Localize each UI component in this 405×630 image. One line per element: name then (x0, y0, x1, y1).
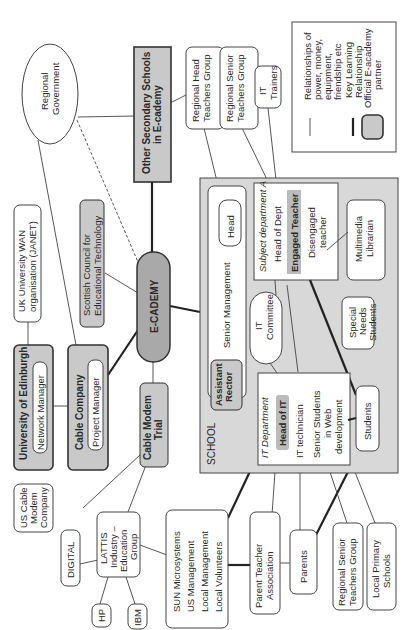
svg-text:University of Edinburgh: University of Edinburgh (18, 347, 29, 460)
node-scottish-council: Scottish Council forEducational Technolo… (80, 200, 104, 327)
svg-text:Regional SeniorTeachers Group: Regional SeniorTeachers Group (224, 54, 246, 122)
svg-text:DIGITAL: DIGITAL (65, 542, 76, 578)
node-cable-modem-trial: Cable ModemTrial (140, 383, 168, 467)
svg-text:HP: HP (96, 609, 107, 622)
e-cademy-relationship-diagram: Relationships ofpower, money,equipment,f… (0, 0, 405, 630)
node-parents: Parents (290, 530, 317, 594)
node-cable-company: Cable Company Project Manager (68, 345, 108, 470)
node-us-cable-modem: US CableModemCompany (14, 484, 53, 532)
svg-text:Head of Dept: Head of Dept (272, 206, 283, 262)
svg-text:E-CADEMY: E-CADEMY (149, 279, 160, 333)
svg-text:SpecialNeedsStudents: SpecialNeedsStudents (347, 303, 378, 341)
svg-text:SCHOOL: SCHOOL (206, 422, 217, 465)
node-e-cademy[interactable]: E-CADEMY (137, 252, 170, 362)
node-regional-government: RegionalGovernment (22, 44, 78, 144)
svg-text:UK University WANorganisation: UK University WANorganisation (JANET) (16, 221, 38, 312)
svg-text:IT technician: IT technician (294, 404, 305, 458)
node-it-trainers: ITTrainers (255, 65, 281, 108)
node-regional-head-teachers: Regional HeadTeachers Group (186, 47, 224, 129)
node-university-edinburgh: University of Edinburgh Network Manager (14, 345, 53, 470)
node-local-primary-schools: Local PrimarySchools (367, 523, 396, 610)
svg-text:Regional SeniorTeachers Group: Regional SeniorTeachers Group (336, 538, 358, 606)
node-sun-microsystems: SUN MicrosystemsUS ManagementLocal Manag… (166, 510, 228, 628)
svg-text:Head: Head (225, 215, 236, 238)
svg-text:Project Manager: Project Manager (90, 377, 101, 447)
node-regional-senior-teachers-top: Regional SeniorTeachers Group (220, 47, 258, 129)
node-hp: HP (92, 604, 111, 627)
svg-text:Students: Students (362, 402, 373, 440)
svg-text:Senior Management: Senior Management (221, 262, 232, 348)
svg-text:Network Manager: Network Manager (35, 375, 46, 450)
svg-text:Parents: Parents (298, 550, 309, 583)
node-digital: DIGITAL (61, 530, 80, 586)
svg-text:IBM: IBM (132, 609, 143, 626)
node-lattis: LATTISIndustry –EducationGroup (97, 512, 140, 577)
node-regional-senior-teachers-bottom: Regional SeniorTeachers Group (333, 523, 363, 610)
svg-text:Head of IT: Head of IT (277, 400, 288, 446)
node-ibm: IBM (128, 604, 147, 629)
svg-text:MultimediaLibrarian: MultimediaLibrarian (353, 215, 375, 262)
svg-text:Subject department A: Subject department A (257, 181, 268, 272)
node-uk-university-wan: UK University WANorganisation (JANET) (14, 205, 41, 322)
legend-partner-swatch (362, 115, 383, 139)
node-other-secondary-schools: Other Secondary Schoolsin E-cademy (134, 47, 171, 182)
node-parent-teacher-association: Parent TeacherAssociation (250, 512, 280, 614)
svg-text:Engaged Teacher: Engaged Teacher (289, 193, 300, 272)
school-container: SCHOOL Senior Management Head AssistantR… (200, 178, 398, 473)
svg-text:Cable Company: Cable Company (74, 374, 85, 450)
svg-text:Regional HeadTeachers Group: Regional HeadTeachers Group (190, 54, 212, 122)
svg-text:Parent TeacherAssociation: Parent TeacherAssociation (253, 544, 275, 608)
legend: Relationships ofpower, money,equipment,f… (292, 22, 396, 152)
svg-text:US CableModemCompany: US CableModemCompany (18, 487, 49, 528)
svg-text:IT Department: IT Department (259, 397, 270, 458)
legend-thick-label: Key LearningRelationship (343, 42, 364, 98)
